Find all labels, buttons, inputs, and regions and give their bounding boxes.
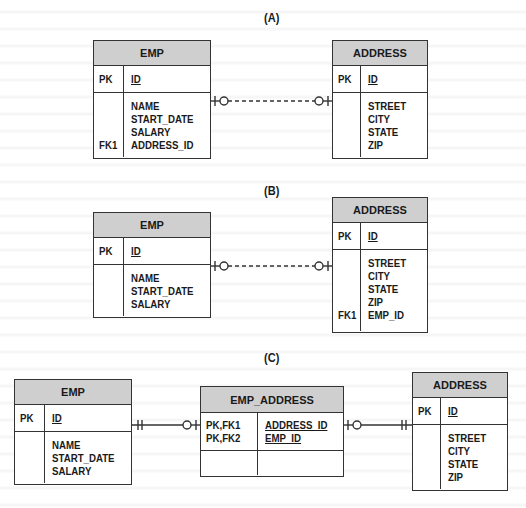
zero-circle-icon [353, 421, 361, 429]
zero-circle-icon [183, 421, 191, 429]
zero-circle-icon [220, 97, 228, 105]
zero-circle-icon [315, 97, 323, 105]
relationship-connectors [0, 0, 526, 508]
relationship-a-emp-address [211, 96, 332, 106]
zero-circle-icon [220, 262, 228, 270]
relationship-b-emp-address [211, 261, 332, 271]
zero-circle-icon [315, 262, 323, 270]
relationship-c-emp-empaddress [132, 420, 200, 430]
relationship-c-empaddress-address [344, 420, 412, 430]
